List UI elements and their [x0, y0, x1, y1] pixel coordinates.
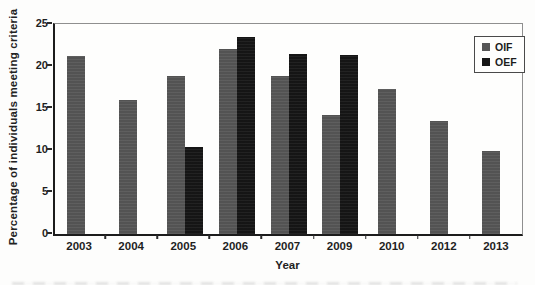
bar-group-2007	[263, 24, 315, 234]
x-tick-label-2012: 2012	[418, 240, 470, 255]
y-tick-mark-20	[47, 64, 52, 66]
legend: OIFOEF	[474, 36, 525, 73]
empty-oef-slot-2010	[396, 233, 406, 234]
x-tick-mark-1	[104, 235, 106, 239]
bar-oef-2007	[289, 54, 307, 234]
x-tick-label-2005: 2005	[157, 240, 209, 255]
y-tick-label-5: 5	[18, 185, 48, 197]
bar-oif-2003	[67, 56, 85, 234]
x-axis-title: Year	[53, 259, 522, 271]
bar-oif-2007	[271, 76, 289, 234]
legend-label: OEF	[495, 57, 517, 68]
legend-item-oif: OIF	[482, 42, 517, 53]
bar-groups	[55, 24, 522, 234]
x-tick-mark-3	[209, 235, 211, 239]
x-tick-label-2007: 2007	[261, 240, 313, 255]
bar-group-2004	[107, 24, 159, 234]
bar-group-2006	[211, 24, 263, 234]
legend-swatch-icon	[482, 58, 490, 66]
bar-oef-2005	[185, 147, 203, 234]
x-tick-mark-5	[313, 235, 315, 239]
y-tick-label-0: 0	[18, 227, 48, 239]
bar-group-2009	[314, 24, 366, 234]
y-tick-mark-25	[47, 22, 52, 24]
legend-label: OIF	[495, 42, 513, 53]
x-tick-label-2009: 2009	[314, 240, 366, 255]
x-tick-labels: 200320042005200620072009201020122013	[53, 240, 522, 255]
bar-oif-2012	[430, 121, 448, 234]
bar-group-2003	[55, 24, 107, 234]
y-tick-label-15: 15	[18, 101, 48, 113]
legend-item-oef: OEF	[482, 57, 517, 68]
bar-oef-2006	[237, 37, 255, 234]
bar-group-2005	[159, 24, 211, 234]
bar-group-2010	[366, 24, 418, 234]
x-tick-label-2006: 2006	[209, 240, 261, 255]
y-tick-mark-0	[47, 232, 52, 234]
bar-oif-2009	[322, 115, 340, 234]
x-tick-label-2003: 2003	[53, 240, 105, 255]
x-tick-label-2013: 2013	[470, 240, 522, 255]
x-tick-mark-7	[417, 235, 419, 239]
y-tick-mark-10	[47, 148, 52, 150]
x-tick-mark-6	[365, 235, 367, 239]
x-tick-label-2004: 2004	[105, 240, 157, 255]
bar-oif-2006	[219, 49, 237, 234]
empty-oef-slot-2003	[85, 233, 95, 234]
y-tick-label-20: 20	[18, 59, 48, 71]
bar-oef-2009	[340, 55, 358, 234]
x-tick-mark-2	[156, 235, 158, 239]
y-tick-label-10: 10	[18, 143, 48, 155]
y-tick-mark-5	[47, 190, 52, 192]
x-tick-mark-4	[261, 235, 263, 239]
bar-oif-2005	[167, 76, 185, 234]
empty-oef-slot-2013	[500, 233, 510, 234]
bar-oif-2010	[378, 89, 396, 234]
legend-swatch-icon	[482, 43, 490, 51]
bar-group-2012	[418, 24, 470, 234]
x-tick-mark-8	[469, 235, 471, 239]
empty-oef-slot-2004	[137, 233, 147, 234]
y-tick-mark-15	[47, 106, 52, 108]
y-tick-label-25: 25	[18, 17, 48, 29]
empty-oef-slot-2012	[448, 233, 458, 234]
figure-bar-chart: Percentage of individuals meeting criter…	[0, 0, 535, 285]
plot-area: OIFOEF	[53, 23, 523, 236]
x-tick-label-2010: 2010	[366, 240, 418, 255]
y-axis-title: Percentage of individuals meeting criter…	[7, 9, 19, 246]
bar-oif-2013	[482, 151, 500, 234]
bar-oif-2004	[119, 100, 137, 234]
